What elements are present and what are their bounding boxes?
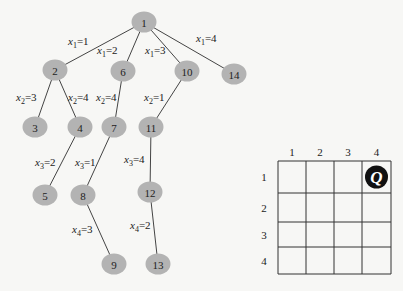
edge-label: x2=3 (15, 91, 37, 106)
node-label: 13 (153, 259, 165, 271)
board-column-label: 3 (345, 146, 351, 158)
edge-label: x1=4 (195, 32, 217, 47)
board-row-label: 4 (261, 255, 267, 267)
node-label: 5 (42, 190, 48, 202)
node-label: 11 (146, 122, 157, 134)
tree-node: 13 (146, 254, 171, 275)
node-label: 2 (52, 65, 58, 77)
edge-label: x1=3 (144, 44, 166, 59)
edge-label: x4=2 (129, 219, 151, 234)
tree-node: 6 (111, 61, 136, 82)
tree-node: 10 (175, 61, 200, 82)
node-label: 14 (229, 69, 241, 81)
tree-node: 11 (139, 117, 164, 138)
node-label: 10 (182, 66, 194, 78)
edge-label: x2=4 (95, 91, 117, 106)
board-row-label: 1 (261, 171, 267, 183)
four-queens-board: 1234 1234 Q (261, 146, 391, 274)
board-row-label: 2 (261, 202, 267, 214)
edge-label: x3=2 (34, 156, 56, 171)
edge-label: x1=2 (96, 44, 118, 59)
tree-nodes: 1261014347115812913 (23, 12, 247, 275)
tree-node: 3 (23, 117, 48, 138)
tree-node: 2 (43, 60, 68, 81)
node-label: 6 (120, 66, 126, 78)
tree-node: 5 (33, 185, 58, 206)
tree-node: 1 (132, 12, 157, 33)
tree-node: 7 (102, 117, 127, 138)
board-row-labels: 1234 (261, 171, 267, 267)
edge-label: x1=1 (67, 35, 89, 50)
edge-label: x3=1 (74, 156, 96, 171)
edge-label: x4=3 (71, 223, 93, 238)
tree-edge (150, 192, 158, 264)
svg-text:Q: Q (370, 168, 382, 187)
board-column-label: 2 (317, 146, 323, 158)
node-label: 12 (145, 187, 156, 199)
tree-node: 12 (138, 182, 163, 203)
tree-node: 9 (102, 254, 127, 275)
node-label: 9 (111, 259, 117, 271)
node-label: 7 (111, 122, 117, 134)
board-column-label: 4 (374, 146, 380, 158)
tree-node: 14 (222, 64, 247, 85)
node-label: 3 (32, 122, 38, 134)
node-label: 1 (141, 17, 147, 29)
node-label: 4 (77, 122, 83, 134)
board-row-label: 3 (261, 229, 267, 241)
queen-icon: Q (365, 166, 388, 189)
edge-label: x2=1 (143, 91, 165, 106)
edge-label: x3=4 (123, 153, 145, 168)
tree-node: 4 (68, 117, 93, 138)
board-column-label: 1 (289, 146, 295, 158)
tree-node: 8 (71, 185, 96, 206)
search-tree-diagram: x1=1x1=2x1=3x1=4x2=3x2=4x2=4x2=1x3=2x3=1… (0, 0, 403, 291)
node-label: 8 (80, 190, 86, 202)
board-column-labels: 1234 (289, 146, 380, 158)
